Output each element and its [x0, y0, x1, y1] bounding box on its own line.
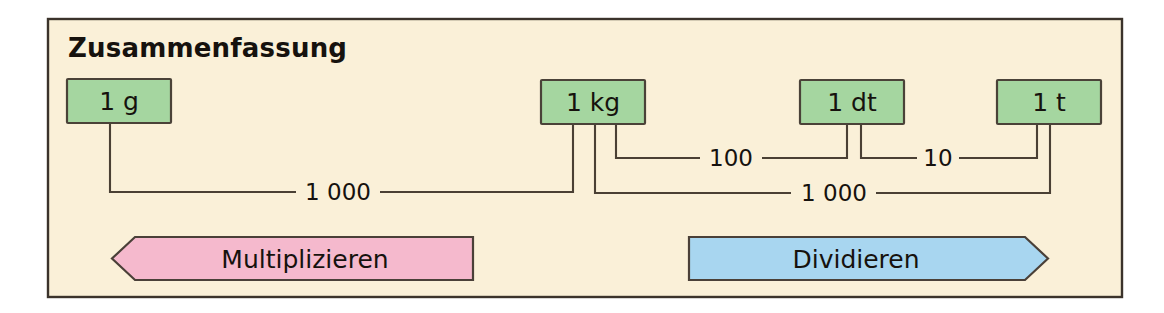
connector-label-g-to-kg: 1 000	[305, 179, 371, 205]
page-title: Zusammenfassung	[68, 33, 347, 63]
unit-box-gram-label: 1 g	[99, 87, 139, 116]
connector-label-dt-to-t: 10	[923, 145, 952, 171]
unit-box-kilogram-label: 1 kg	[566, 88, 620, 117]
unit-box-kilogram[interactable]: 1 kg	[541, 80, 645, 124]
diagram-stage: Zusammenfassung 1 000 100 10 1 000 1 g 1…	[0, 0, 1164, 313]
banner-multiply-label: Multiplizieren	[221, 245, 388, 274]
connector-label-kg-to-dt: 100	[709, 145, 753, 171]
banner-multiply[interactable]: Multiplizieren	[112, 237, 473, 280]
connector-label-kg-to-t: 1 000	[801, 180, 867, 206]
unit-box-dezitonne[interactable]: 1 dt	[800, 80, 904, 124]
banner-divide-label: Dividieren	[792, 245, 919, 274]
unit-box-gram[interactable]: 1 g	[67, 79, 171, 123]
unit-box-dezitonne-label: 1 dt	[827, 88, 877, 117]
unit-box-tonne[interactable]: 1 t	[997, 80, 1101, 124]
unit-box-tonne-label: 1 t	[1032, 88, 1066, 117]
summary-diagram: Zusammenfassung 1 000 100 10 1 000 1 g 1…	[0, 0, 1164, 313]
banner-divide[interactable]: Dividieren	[689, 237, 1048, 280]
